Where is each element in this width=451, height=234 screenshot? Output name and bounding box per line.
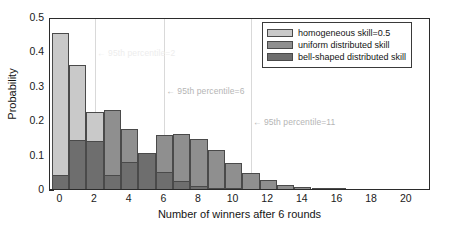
bar bbox=[190, 186, 207, 189]
legend-swatch-uniform bbox=[267, 41, 293, 49]
bar bbox=[208, 188, 225, 189]
x-tick-label: 6 bbox=[160, 192, 166, 204]
y-tick-label: 0.1 bbox=[29, 149, 44, 161]
y-tick-label: 0.5 bbox=[29, 11, 44, 23]
legend-item: bell-shaped distributed skill bbox=[267, 51, 406, 62]
legend: homogeneous skill=0.5 uniform distribute… bbox=[262, 22, 412, 68]
x-tick-label: 10 bbox=[227, 192, 239, 204]
x-tick-label: 12 bbox=[261, 192, 273, 204]
x-tick-label: 16 bbox=[331, 192, 343, 204]
bar bbox=[138, 153, 155, 189]
bar bbox=[312, 188, 329, 189]
x-axis-title: Number of winners after 6 rounds bbox=[49, 208, 430, 220]
bar bbox=[86, 141, 103, 190]
x-tick-label: 14 bbox=[296, 192, 308, 204]
bar bbox=[156, 172, 173, 189]
bar bbox=[104, 175, 121, 189]
bar bbox=[225, 163, 242, 189]
legend-swatch-homogeneous bbox=[267, 29, 293, 37]
histogram-figure: Probability Number of winners after 6 ro… bbox=[0, 0, 451, 234]
x-tick-label: 18 bbox=[365, 192, 377, 204]
y-axis-title: Probability bbox=[6, 49, 18, 139]
bar bbox=[260, 180, 277, 189]
x-tick-label: 0 bbox=[56, 192, 62, 204]
y-tick-label: 0.2 bbox=[29, 114, 44, 126]
bar bbox=[52, 33, 69, 189]
legend-label-uniform: uniform distributed skill bbox=[298, 40, 390, 50]
legend-swatch-bell-shaped bbox=[267, 53, 293, 61]
bar bbox=[329, 188, 346, 189]
y-tick-mark bbox=[49, 190, 54, 191]
x-tick-label: 4 bbox=[126, 192, 132, 204]
y-tick-label: 0.3 bbox=[29, 80, 44, 92]
legend-label-homogeneous: homogeneous skill=0.5 bbox=[298, 28, 390, 38]
legend-label-bell-shaped: bell-shaped distributed skill bbox=[298, 52, 406, 62]
bar bbox=[52, 175, 69, 189]
x-tick-label: 2 bbox=[91, 192, 97, 204]
bar bbox=[190, 139, 207, 189]
bar bbox=[208, 150, 225, 189]
bar bbox=[225, 188, 242, 189]
bar bbox=[69, 140, 86, 189]
legend-item: homogeneous skill=0.5 bbox=[267, 27, 406, 38]
bar bbox=[121, 162, 138, 189]
y-tick-label: 0 bbox=[38, 183, 44, 195]
bar bbox=[242, 173, 259, 190]
bar bbox=[173, 181, 190, 189]
x-tick-label: 8 bbox=[195, 192, 201, 204]
bar bbox=[294, 187, 311, 189]
y-tick-label: 0.4 bbox=[29, 45, 44, 57]
legend-item: uniform distributed skill bbox=[267, 39, 406, 50]
bar bbox=[277, 185, 294, 189]
x-tick-label: 20 bbox=[400, 192, 412, 204]
